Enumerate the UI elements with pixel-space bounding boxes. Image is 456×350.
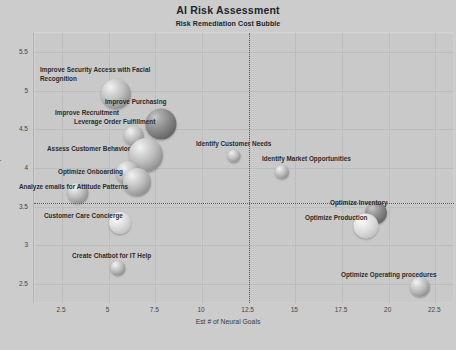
- x-tick-label: 2.5: [56, 306, 65, 313]
- bubble-label: Improve Recruitment: [55, 109, 119, 118]
- y-tick-label: 2.5: [14, 279, 28, 286]
- x-tick-label: 7.5: [150, 306, 159, 313]
- bubble-label: Optimize Onboarding: [58, 168, 123, 177]
- bubble-label: Assess Customer Behavior: [47, 145, 130, 154]
- x-axis-title: Est # of Neural Goals: [0, 318, 456, 325]
- x-tick-label: 15: [291, 306, 298, 313]
- bubble-label: Create Chatbot for IT Help: [72, 252, 151, 261]
- bubble-point[interactable]: [123, 168, 151, 196]
- bubble-label: Optimize Operating procedures: [341, 271, 437, 280]
- bubble-label: Identify Market Opportunities: [262, 155, 351, 164]
- bubble-sphere: [275, 165, 289, 179]
- bubble-sphere: [123, 168, 151, 196]
- reference-line-horizontal: [34, 203, 454, 204]
- gridline-horizontal: [34, 91, 454, 92]
- gridline-horizontal: [34, 284, 454, 285]
- y-tick-label: 5: [14, 86, 28, 93]
- bubble-label: Analyze emails for Attitude Patterns: [19, 183, 128, 192]
- y-tick-label: 4.5: [14, 125, 28, 132]
- reference-line-vertical: [249, 33, 250, 303]
- gridline-horizontal: [34, 129, 454, 130]
- bubble-sphere: [410, 277, 430, 297]
- x-tick-label: 10: [197, 306, 204, 313]
- gridline-horizontal: [34, 52, 454, 53]
- y-tick-label: 5.5: [14, 48, 28, 55]
- x-tick-label: 12.5: [241, 306, 254, 313]
- gridline-horizontal: [34, 207, 454, 208]
- bubble-point[interactable]: [228, 150, 241, 163]
- bubble-sphere: [111, 261, 126, 276]
- chart-canvas: AI Risk Assessment Risk Remediation Cost…: [0, 0, 456, 350]
- bubble-label: Optimize Inventory: [330, 199, 388, 208]
- x-tick-label: 22.5: [428, 306, 441, 313]
- gridline-horizontal: [34, 245, 454, 246]
- bubble-label: Customer Care Concierge: [44, 212, 123, 221]
- bubble-label: Optimize Production: [305, 214, 368, 223]
- bubble-sphere: [228, 150, 241, 163]
- bubble-label: Leverage Order Fulfillment: [74, 118, 155, 127]
- x-tick-label: 20: [384, 306, 391, 313]
- bubble-point[interactable]: [410, 277, 430, 297]
- x-tick-label: 5: [106, 306, 110, 313]
- bubble-label: Improve Security Access with Facial Reco…: [40, 66, 150, 83]
- chart-subtitle: Risk Remediation Cost Bubble: [0, 20, 456, 27]
- bubble-point[interactable]: [111, 261, 126, 276]
- chart-title: AI Risk Assessment: [0, 4, 456, 16]
- bubble-label: Identify Customer Needs: [196, 140, 271, 149]
- y-tick-label: 3.5: [14, 202, 28, 209]
- bubble-point[interactable]: [275, 165, 289, 179]
- y-tick-label: 3: [14, 241, 28, 248]
- x-tick-label: 17.5: [335, 306, 348, 313]
- y-tick-label: 4: [14, 164, 28, 171]
- bubble-label: Improve Purchasing: [105, 98, 166, 107]
